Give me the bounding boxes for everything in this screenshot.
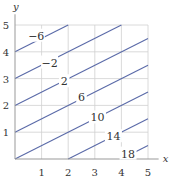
contour-label: 6 <box>78 91 85 104</box>
y-tick-label: 2 <box>3 100 9 111</box>
contour-label: 10 <box>90 111 104 124</box>
x-tick-label: 5 <box>145 167 151 178</box>
x-tick-label: 2 <box>65 167 71 178</box>
contour-label: 18 <box>121 148 135 161</box>
contour-plot: 1234512345xy −6−226101418 <box>0 0 172 188</box>
contour-label: −6 <box>28 30 44 43</box>
contour-label: 14 <box>106 130 120 143</box>
x-tick-label: 1 <box>38 167 44 178</box>
y-tick-label: 5 <box>3 20 9 31</box>
contour-label: 2 <box>61 75 68 88</box>
x-tick-label: 4 <box>118 167 124 178</box>
x-tick-label: 3 <box>92 167 98 178</box>
contour-labels: −6−226101418 <box>28 29 137 161</box>
contour-label: −2 <box>41 57 57 70</box>
y-tick-label: 1 <box>3 127 9 138</box>
x-axis-label: x <box>163 153 169 164</box>
tick-labels: 1234512345xy <box>3 1 169 178</box>
y-tick-label: 3 <box>3 74 9 85</box>
y-tick-label: 4 <box>3 47 9 58</box>
y-axis-label: y <box>12 1 19 12</box>
